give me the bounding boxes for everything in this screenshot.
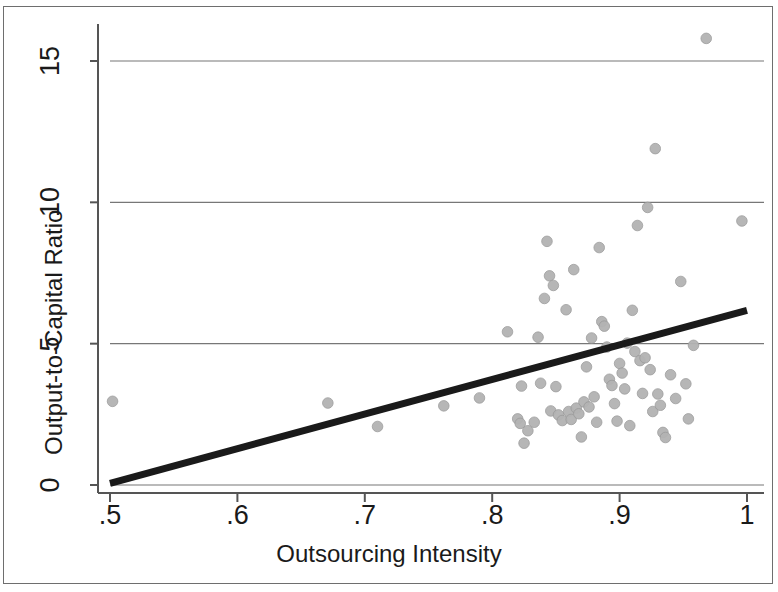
data-point: [591, 417, 602, 428]
data-point: [609, 398, 620, 409]
data-point: [574, 408, 585, 419]
data-point: [544, 271, 555, 282]
data-point: [632, 220, 643, 231]
data-point: [640, 353, 651, 364]
x-tick-label: .7: [354, 500, 377, 531]
data-point: [548, 280, 559, 291]
data-point: [683, 414, 694, 425]
regression-fit-line: [110, 310, 747, 483]
data-point: [561, 304, 572, 315]
data-point: [645, 364, 656, 375]
y-tick-label: 0: [33, 460, 67, 510]
data-point: [627, 305, 638, 316]
y-tick-label: 10: [33, 177, 67, 227]
x-tick-label: .9: [608, 500, 631, 531]
data-point: [670, 393, 681, 404]
data-point: [614, 358, 625, 369]
data-point: [681, 379, 692, 390]
x-tick-label: 1: [739, 500, 754, 531]
data-point: [586, 333, 597, 344]
y-tick-label: 5: [33, 319, 67, 369]
data-point: [576, 432, 587, 443]
data-point: [653, 389, 664, 400]
tick-marks-group: [90, 61, 747, 502]
data-point: [655, 400, 666, 411]
data-point: [637, 388, 648, 399]
data-point: [568, 264, 579, 275]
data-point: [107, 396, 118, 407]
data-point: [675, 276, 686, 287]
data-point: [551, 381, 562, 392]
data-point: [589, 392, 600, 403]
y-tick-label: 15: [33, 36, 67, 86]
x-tick-label: .8: [481, 500, 504, 531]
gridlines-group: [110, 61, 764, 485]
data-point: [372, 421, 383, 432]
x-axis-title: Outsourcing Intensity: [0, 540, 778, 568]
data-point: [650, 143, 661, 154]
data-point: [617, 368, 628, 379]
data-point: [474, 393, 485, 404]
data-point: [701, 33, 712, 44]
data-point: [607, 380, 618, 391]
figure-container: Output-to-Capital Ratio Outsourcing Inte…: [0, 0, 778, 592]
x-tick-label: .6: [226, 500, 249, 531]
data-point: [529, 417, 540, 428]
data-point: [323, 398, 334, 409]
data-point: [533, 332, 544, 343]
axes-group: [98, 24, 764, 493]
data-point: [737, 216, 748, 227]
data-point: [539, 293, 550, 304]
data-point: [535, 378, 546, 389]
data-point: [688, 340, 699, 351]
data-point: [619, 384, 630, 395]
data-point: [584, 402, 595, 413]
fit-line-group: [110, 310, 747, 483]
data-point: [642, 202, 653, 213]
data-point: [581, 362, 592, 373]
data-point: [665, 369, 676, 380]
data-point: [599, 321, 610, 332]
data-point: [660, 432, 671, 443]
data-points-group: [107, 33, 747, 448]
data-point: [542, 236, 553, 247]
data-point: [502, 326, 513, 337]
data-point: [516, 381, 527, 392]
data-point: [594, 242, 605, 253]
data-point: [519, 438, 530, 449]
data-point: [624, 420, 635, 431]
data-point: [612, 416, 623, 427]
data-point: [438, 401, 449, 412]
x-tick-label: .5: [99, 500, 122, 531]
